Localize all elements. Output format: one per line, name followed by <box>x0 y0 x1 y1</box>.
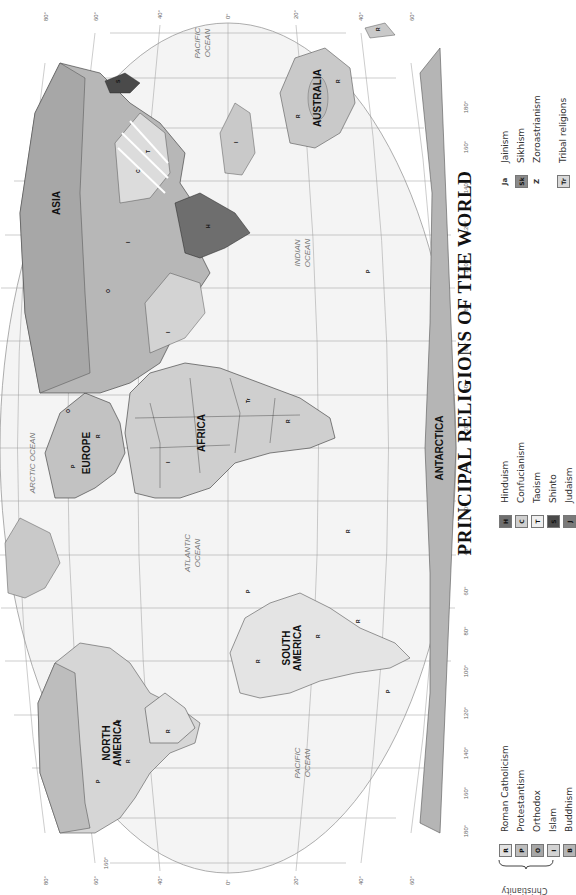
legend-label: Orthodox <box>532 790 542 832</box>
svg-text:40°: 40° <box>358 875 364 885</box>
svg-text:0°: 0° <box>225 879 231 885</box>
swatch-islam: I <box>547 844 560 857</box>
longitude-labels-top: 160° <box>103 856 109 869</box>
svg-text:60°: 60° <box>93 11 99 21</box>
legend-item-buddhism: B Buddhism <box>562 787 576 857</box>
legend-item-tribal-religions: Tr Tribal religions <box>556 98 570 188</box>
legend-item-taoism: T Taoism <box>530 472 544 528</box>
symbol-jainism: Ja <box>499 175 512 188</box>
svg-text:P: P <box>245 589 251 593</box>
swatch-taoism: T <box>531 515 544 528</box>
label-pacific-ocean-west-2: OCEAN <box>303 749 312 778</box>
svg-text:180°: 180° <box>463 824 469 837</box>
brace-icon <box>498 859 554 869</box>
svg-text:40°: 40° <box>157 875 163 885</box>
legend-label: Shinto <box>548 474 558 503</box>
svg-text:R: R <box>255 659 261 663</box>
map-title: PRINCIPAL RELIGIONS OF THE WORLD <box>454 133 476 593</box>
legend-item-zoroastrianism: Z Zoroastrianism <box>530 95 544 188</box>
latitude-labels-left: 80° 60° 40° 0° 20° 40° 60° <box>43 875 415 885</box>
svg-text:20°: 20° <box>293 875 299 885</box>
svg-text:20°: 20° <box>293 9 299 19</box>
svg-text:60°: 60° <box>409 875 415 885</box>
svg-text:P: P <box>95 779 101 783</box>
svg-text:O: O <box>65 409 71 413</box>
svg-text:I: I <box>165 331 171 333</box>
legend-item-protestantism: P Protestantism <box>514 770 528 857</box>
label-pacific-ocean-east-2: OCEAN <box>203 29 212 58</box>
svg-text:160°: 160° <box>103 856 109 869</box>
christianity-brace-group: Christianity <box>498 861 554 891</box>
svg-text:80°: 80° <box>463 626 469 636</box>
svg-text:60°: 60° <box>93 875 99 885</box>
svg-text:R: R <box>295 114 301 118</box>
legend-label: Islam <box>548 808 558 832</box>
legend-label: Buddhism <box>564 787 574 832</box>
christianity-label: Christianity <box>502 886 548 895</box>
swatch-judaism: J <box>563 515 576 528</box>
svg-text:R: R <box>315 634 321 638</box>
svg-text:80°: 80° <box>43 875 49 885</box>
svg-text:R: R <box>95 434 101 438</box>
label-indian-ocean-2: OCEAN <box>303 239 312 268</box>
svg-text:T: T <box>145 150 151 153</box>
svg-text:60°: 60° <box>409 11 415 21</box>
svg-text:P: P <box>70 464 76 468</box>
label-africa: AFRICA <box>196 414 207 452</box>
legend-label: Hinduism <box>500 461 510 503</box>
svg-text:I: I <box>165 461 171 463</box>
svg-text:40°: 40° <box>358 11 364 21</box>
svg-text:I: I <box>125 241 131 243</box>
legend-item-islam: I Islam <box>546 808 560 857</box>
label-north-america: NORTH <box>101 725 112 761</box>
swatch-protestantism: P <box>515 844 528 857</box>
svg-text:R: R <box>125 759 131 763</box>
swatch-sikhism: Sk <box>515 175 528 188</box>
label-south-america-2: AMERICA <box>292 625 303 672</box>
svg-text:100°: 100° <box>463 664 469 677</box>
svg-text:O: O <box>105 289 111 293</box>
legend-item-sikhism: Sk Sikhism <box>514 128 528 188</box>
svg-text:R: R <box>335 79 341 83</box>
svg-text:160°: 160° <box>463 786 469 799</box>
latitude-labels-right: 80° 60° 40° 0° 20° 40° 60° <box>43 9 415 21</box>
svg-text:I: I <box>233 141 239 143</box>
label-arctic-ocean: ARCTIC OCEAN <box>28 433 37 495</box>
svg-text:P: P <box>365 269 371 273</box>
svg-text:R: R <box>355 619 361 623</box>
legend-item-hinduism: H Hinduism <box>498 461 512 528</box>
svg-text:40°: 40° <box>157 9 163 19</box>
swatch-confucianism: C <box>515 515 528 528</box>
swatch-roman-catholicism: R <box>499 844 512 857</box>
label-europe: EUROPE <box>81 432 92 475</box>
label-asia: ASIA <box>51 191 62 215</box>
legend-label: Tribal religions <box>558 98 568 163</box>
legend-label: Sikhism <box>516 128 526 163</box>
label-indian-ocean: INDIAN <box>293 239 302 266</box>
svg-text:0°: 0° <box>225 13 231 19</box>
svg-text:R: R <box>345 529 351 533</box>
svg-text:R: R <box>165 729 171 733</box>
svg-text:P: P <box>385 689 391 693</box>
swatch-tribal-religions: Tr <box>557 175 570 188</box>
legend-item-shinto: S Shinto <box>546 474 560 528</box>
legend-label: Judaism <box>564 467 574 503</box>
legend-item-orthodox: O Orthodox <box>530 790 544 857</box>
legend-item-jainism: Ja Jainism <box>498 131 512 188</box>
swatch-orthodox: O <box>531 844 544 857</box>
svg-text:H: H <box>205 224 211 228</box>
legend: Christianity R Roman Catholicism P Prote… <box>490 0 575 893</box>
legend-label: Jainism <box>500 131 510 163</box>
legend-label: Confucianism <box>516 442 526 503</box>
legend-item-confucianism: C Confucianism <box>514 442 528 528</box>
label-antarctica: ANTARCTICA <box>434 416 445 481</box>
legend-label: Zoroastrianism <box>532 95 542 163</box>
svg-text:R: R <box>375 27 381 31</box>
legend-item-roman-catholicism: R Roman Catholicism <box>498 745 512 857</box>
symbol-zoroastrianism: Z <box>531 175 544 188</box>
world-religions-map: NORTH AMERICA SOUTH AMERICA EUROPE AFRIC… <box>0 0 490 893</box>
legend-label: Taoism <box>532 472 542 503</box>
legend-item-judaism: J Judaism <box>562 467 576 528</box>
svg-text:80°: 80° <box>43 11 49 21</box>
